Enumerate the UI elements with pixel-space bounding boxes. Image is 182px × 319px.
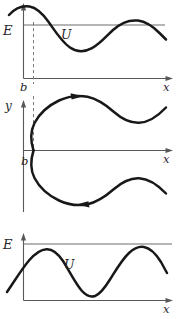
figure-canvas: E U b x y b x (0, 0, 182, 319)
top-panel-x-axis-label: x (163, 80, 170, 94)
middle-panel-y-axis-label: y (4, 99, 12, 113)
middle-panel-upper-branch (31, 96, 166, 151)
bottom-panel-energy-label: E (2, 237, 13, 252)
middle-panel-turning-point-label: b (21, 154, 28, 168)
bottom-panel-potential-label: U (64, 257, 75, 272)
physics-figure: E U b x y b x (0, 0, 182, 319)
middle-panel-y-axis-arrowhead (21, 100, 26, 108)
middle-panel-lower-branch-arrow (77, 201, 90, 207)
middle-panel-lower-branch (31, 151, 166, 206)
top-panel-energy-label: E (2, 23, 13, 38)
top-panel-turning-point-label: b (20, 80, 27, 94)
bottom-panel-x-axis-label: x (163, 302, 170, 316)
middle-trajectory-panel: y b x (4, 93, 173, 212)
top-potential-panel: E U b x (2, 3, 173, 94)
middle-panel-upper-branch-arrow (71, 93, 84, 99)
middle-panel-x-axis-label: x (163, 152, 170, 166)
bottom-potential-panel: E U x (2, 233, 173, 316)
bottom-panel-y-axis-arrowhead (21, 233, 26, 241)
top-panel-potential-curve (9, 6, 166, 51)
bottom-panel-potential-curve (7, 247, 167, 297)
top-panel-potential-label: U (61, 27, 72, 42)
